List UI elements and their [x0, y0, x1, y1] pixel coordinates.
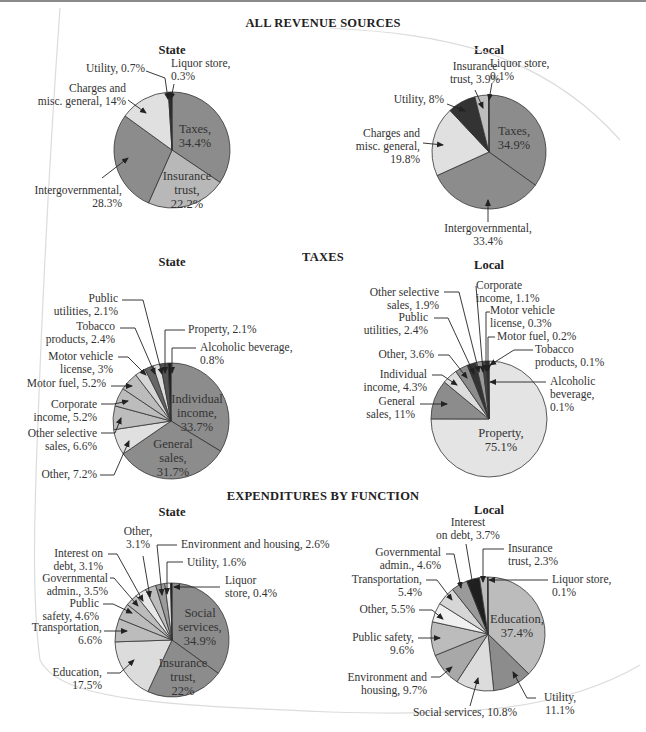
label-governmental-admin: Governmentaladmin., 3.5% — [42, 572, 108, 598]
label-environment-and-housing: Environment andhousing, 9.7% — [347, 671, 427, 697]
label-alcoholic-beverage: Alcoholic beverage,0.8% — [200, 341, 293, 366]
label-taxes: Taxes,34.4% — [179, 122, 211, 150]
leader-arrow-other-selective-sales — [444, 292, 479, 372]
label-interest-on-debt: Interest ondebt, 3.1% — [53, 547, 103, 573]
label-corporate-income: Corporateincome, 5.2% — [33, 398, 97, 424]
label-liquor-store: Liquor store,0.1% — [490, 57, 550, 82]
label-other: Other,3.1% — [124, 525, 153, 550]
label-transportation: Transportation,6.6% — [32, 621, 103, 646]
label-environment-and-housing: Environment and housing, 2.6% — [181, 538, 330, 551]
pie-taxes-local — [431, 361, 547, 477]
label-motor-fuel: Motor fuel, 0.2% — [497, 330, 577, 343]
label-intergovernmental: Intergovernmental,33.4% — [444, 222, 532, 247]
label-utility: Utility, 8% — [394, 93, 445, 106]
label-social-services: Social services, 10.8% — [413, 706, 518, 719]
label-education: Education,17.5% — [53, 666, 103, 691]
label-tobacco-products: Tobaccoproducts, 2.4% — [46, 320, 116, 346]
label-taxes: Taxes,34.9% — [498, 124, 530, 152]
pie-charts-canvas: Taxes,34.4%Insurancetrust,22.2%Intergove… — [0, 0, 646, 732]
label-motor-vehicle-license: Motor vehiclelicense, 0.3% — [490, 304, 555, 330]
label-utility: Utility, 1.6% — [187, 556, 246, 569]
label-corporate-income: Corporateincome, 1.1% — [476, 279, 540, 305]
leader-arrow-public-utilities — [122, 300, 162, 374]
label-property: Property, 2.1% — [188, 323, 257, 336]
label-utility: Utility,11.1% — [544, 691, 576, 716]
label-public-safety: Public safety,9.6% — [352, 631, 414, 656]
label-liquor-store: Liquorstore, 0.4% — [225, 574, 277, 600]
label-alcoholic-beverage: Alcoholicbeverage,0.1% — [550, 375, 595, 413]
label-motor-vehicle-license: Motor vehiclelicense, 3% — [48, 350, 113, 376]
label-individual-income: Individualincome, 4.3% — [363, 368, 427, 394]
label-charges-and-misc-general: Charges andmisc. general, 14% — [38, 82, 127, 108]
label-transportation: Transportation,5.4% — [352, 573, 423, 598]
label-insurance-trust: Insurancetrust, 2.3% — [508, 542, 559, 568]
label-public-safety: Publicsafety, 4.6% — [43, 597, 100, 623]
label-other: Other, 7.2% — [42, 468, 98, 481]
label-property: Property,75.1% — [478, 426, 523, 454]
label-other: Other, 3.6% — [379, 348, 435, 361]
label-social-services: Socialservices,34.9% — [178, 606, 221, 648]
label-other: Other, 5.5% — [360, 603, 416, 616]
label-motor-fuel: Motor fuel, 5.2% — [27, 377, 107, 390]
label-other-selective-sales: Other selectivesales, 6.6% — [28, 427, 98, 453]
label-liquor-store: Liquor store,0.3% — [171, 57, 231, 82]
label-governmental-admin: Governmentaladmin., 4.6% — [375, 546, 441, 572]
label-public-utilities: Publicutilities, 2.1% — [54, 292, 119, 318]
label-utility: Utility, 0.7% — [86, 62, 145, 75]
label-general-sales: Generalsales, 11% — [366, 395, 415, 421]
pie-all-revenue-sources-state — [114, 92, 230, 208]
leader-arrow-governmental-admin — [446, 554, 461, 588]
pie-all-revenue-sources-local — [432, 95, 546, 209]
label-other-selective-sales: Other selectivesales, 1.9% — [370, 286, 440, 312]
label-tobacco-products: Tobaccoproducts, 0.1% — [535, 343, 605, 369]
label-public-utilities: Publicutilities, 2.4% — [364, 311, 429, 337]
label-interest-on-debt: Intereston debt, 3.7% — [436, 516, 500, 542]
label-charges-and-misc-general: Charges andmisc. general,19.8% — [356, 127, 421, 165]
label-liquor-store: Liquor store,0.1% — [552, 573, 612, 598]
